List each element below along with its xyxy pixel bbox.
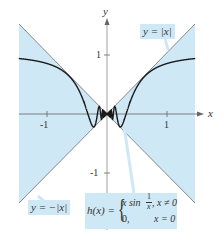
h-definition-box: h(x) = { x sin 1 x , x ≠ 0 0, x = 0 — [85, 193, 177, 229]
y-axis-label: y — [103, 6, 108, 17]
h-function-name: h(x) = — [87, 205, 115, 216]
case2-expr: 0, — [122, 214, 130, 224]
label-lower-bound: y = −|x| — [28, 200, 70, 215]
case1-expr: x sin — [122, 198, 141, 208]
x-axis-label: x — [208, 108, 213, 119]
x-tick-label-1: 1 — [164, 120, 169, 130]
x-axis-arrow-icon — [197, 112, 204, 117]
case2-condition: x = 0 — [154, 214, 175, 224]
case1-frac-den: x — [147, 203, 151, 211]
label-upper-bound: y = |x| — [140, 24, 175, 39]
y-axis-arrow-icon — [105, 18, 110, 25]
case1-frac-num: 1 — [147, 193, 151, 201]
shaded-region-right — [107, 24, 195, 203]
leader-upper — [165, 38, 168, 50]
x-tick-label-neg1: -1 — [40, 120, 48, 130]
case1-condition: , x ≠ 0 — [152, 198, 177, 208]
y-tick-label-neg1: -1 — [90, 168, 98, 178]
y-tick-label-1: 1 — [96, 50, 101, 60]
